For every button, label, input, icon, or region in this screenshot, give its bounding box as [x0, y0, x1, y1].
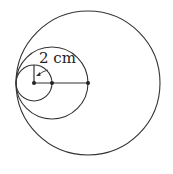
- arrowhead-icon: [36, 72, 41, 76]
- tangent-circles-diagram: 2 cm: [0, 0, 173, 174]
- medium-center-point: [50, 81, 54, 85]
- radius-label: 2 cm: [39, 49, 76, 67]
- small-center-point: [32, 81, 36, 85]
- large-center-point: [86, 81, 90, 85]
